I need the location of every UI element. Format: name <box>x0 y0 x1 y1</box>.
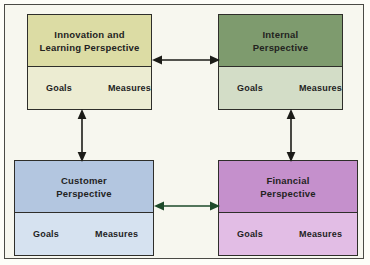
connector-innovation-internal <box>152 53 220 67</box>
perspective-header-financial: Financial Perspective <box>219 161 357 213</box>
connector-customer-financial <box>154 199 220 213</box>
perspective-header-customer: Customer Perspective <box>15 161 153 213</box>
diagram-canvas: Innovation and Learning Perspective Goal… <box>0 0 370 265</box>
perspective-title-line-1: Customer <box>61 174 107 187</box>
perspective-header-innovation: Innovation and Learning Perspective <box>28 15 151 67</box>
column-label-measures: Measures <box>95 229 138 239</box>
column-label-goals: Goals <box>237 83 299 93</box>
perspective-body-financial: Goals Measures <box>219 213 357 255</box>
perspective-title-line-1: Innovation and <box>54 28 124 41</box>
perspective-box-financial[interactable]: Financial Perspective Goals Measures <box>218 160 358 256</box>
perspective-box-customer[interactable]: Customer Perspective Goals Measures <box>14 160 154 256</box>
perspective-title-line-2: Perspective <box>56 187 112 200</box>
perspective-body-customer: Goals Measures <box>15 213 153 255</box>
column-label-goals: Goals <box>237 229 299 239</box>
column-label-measures: Measures <box>108 83 151 93</box>
perspective-title-line-2: Perspective <box>253 41 309 54</box>
column-label-measures: Measures <box>299 83 342 93</box>
perspective-title-line-1: Financial <box>267 174 310 187</box>
column-label-goals: Goals <box>33 229 95 239</box>
perspective-title-line-2: Learning Perspective <box>39 41 139 54</box>
perspective-body-innovation: Goals Measures <box>28 67 151 109</box>
perspective-box-internal[interactable]: Internal Perspective Goals Measures <box>218 14 343 110</box>
perspective-header-internal: Internal Perspective <box>219 15 342 67</box>
connector-internal-financial <box>284 109 298 162</box>
connector-innovation-customer <box>75 109 89 162</box>
perspective-box-innovation[interactable]: Innovation and Learning Perspective Goal… <box>27 14 152 110</box>
column-label-measures: Measures <box>299 229 342 239</box>
column-label-goals: Goals <box>46 83 108 93</box>
perspective-title-line-2: Perspective <box>260 187 316 200</box>
diagram-frame: Innovation and Learning Perspective Goal… <box>4 4 364 259</box>
perspective-title-line-1: Internal <box>263 28 299 41</box>
perspective-body-internal: Goals Measures <box>219 67 342 109</box>
